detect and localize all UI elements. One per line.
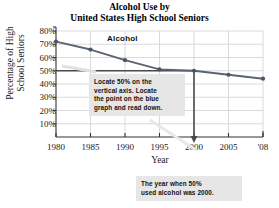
data-point-1995 — [157, 67, 161, 71]
data-point-1985 — [88, 47, 92, 51]
data-point-2005 — [226, 73, 230, 77]
data-point-1990 — [123, 58, 127, 62]
callout-leader-answer — [150, 120, 196, 150]
data-point-2008 — [261, 77, 265, 81]
answer-callout-line-2: used alcohol was 2000. — [141, 189, 237, 198]
locate-instruction-callout: Locate 50% on thevertical axis. Locateth… — [89, 74, 185, 116]
data-point-1980 — [54, 40, 58, 44]
locate-instruction-line-4: graph and read down. — [94, 104, 180, 113]
series-label-alcohol: Alcohol — [107, 34, 138, 43]
data-point-2000 — [192, 69, 196, 73]
locate-instruction-line-3: the point on the blue — [94, 95, 180, 104]
answer-callout-line-1: The year when 50% — [141, 180, 237, 189]
chart-figure: Alcohol Use by United States High School… — [0, 0, 279, 208]
answer-callout: The year when 50%used alcohol was 2000. — [136, 176, 242, 201]
guide-arrowhead — [191, 136, 198, 143]
locate-instruction-line-2: vertical axis. Locate — [94, 87, 180, 96]
locate-instruction-line-1: Locate 50% on the — [94, 78, 180, 87]
